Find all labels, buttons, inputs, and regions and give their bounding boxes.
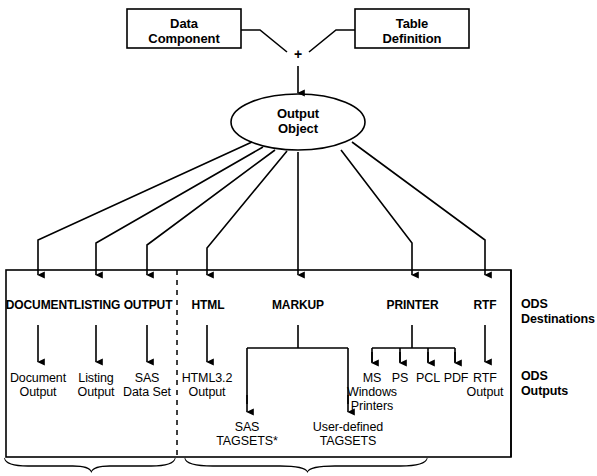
- destination-rtf: RTF: [461, 299, 509, 312]
- markup-child-sas-tagsets: SAS TAGSETS*: [207, 420, 287, 448]
- side-label-ods-destinations: ODS Destinations: [521, 297, 597, 327]
- data-component-label: Data Component: [127, 17, 241, 46]
- printer-branch-bus: [372, 325, 455, 362]
- side-label-ods-outputs: ODS Outputs: [521, 369, 597, 399]
- fanout-to-html: [207, 151, 287, 275]
- fanout-to-output: [147, 150, 275, 275]
- brace-left-group: [4, 458, 175, 472]
- output-html32-output: HTML3.2 Output: [172, 371, 242, 399]
- connector-data-to-plus: [241, 30, 287, 52]
- fanout-to-listing: [96, 147, 263, 275]
- output-object-label: Output Object: [240, 107, 356, 136]
- fanout-to-rtf: [352, 142, 485, 275]
- plus-symbol: +: [282, 47, 314, 63]
- fanout-to-printer: [341, 150, 412, 275]
- destination-output: OUTPUT: [119, 299, 177, 312]
- fanout-to-document: [38, 142, 252, 275]
- markup-child-user-defined-tagsets: User-defined TAGSETS: [296, 420, 400, 448]
- destination-printer: PRINTER: [374, 299, 451, 312]
- diagram-connectors: [0, 0, 597, 476]
- brace-right-group: [185, 458, 427, 472]
- ods-flow-diagram: Data Component Table Definition + Output…: [0, 0, 597, 476]
- destination-html: HTML: [177, 299, 239, 312]
- markup-branch-bus: [247, 325, 348, 404]
- destination-markup: MARKUP: [258, 299, 338, 312]
- connector-table-to-plus: [309, 30, 355, 52]
- table-definition-label: Table Definition: [355, 17, 469, 46]
- output-rtf-output: RTF Output: [459, 371, 511, 399]
